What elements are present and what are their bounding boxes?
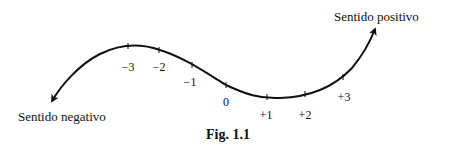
tick-label: 0 [223,95,229,109]
tick-label: +1 [260,108,273,122]
figure-caption: Fig. 1.1 [206,127,250,142]
tick-label: +3 [338,90,351,104]
tick-label: −1 [184,75,197,89]
tick-label: −3 [122,60,135,74]
oriented-curve-diagram: −3−2−10+1+2+3 Sentido negativo Sentido p… [0,0,449,148]
positive-direction-label: Sentido positivo [334,9,419,24]
tick-label: −2 [153,60,166,74]
tick-label: +2 [299,108,312,122]
curve [226,29,375,98]
negative-direction-label: Sentido negativo [18,109,106,124]
curve [52,45,226,101]
